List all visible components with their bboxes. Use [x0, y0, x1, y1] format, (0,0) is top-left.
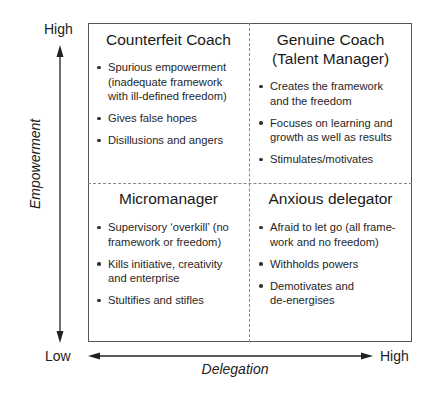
bullet-line: and the freedom	[270, 94, 411, 109]
bullet-line: work and no freedom)	[270, 235, 411, 250]
bullet-line: framework or freedom)	[108, 235, 249, 250]
bullet-item: Withholds powers	[250, 257, 411, 272]
bullet-line: Disillusions and angers	[108, 133, 249, 148]
x-axis-high-label: High	[380, 348, 409, 364]
bullet-item: Creates the framework and the freedom	[250, 79, 411, 108]
y-axis-title: Empowerment	[27, 129, 43, 209]
bullet-list: Spurious empowerment (inadequate framewo…	[88, 60, 249, 148]
bullet-line: and enterprise	[108, 271, 249, 286]
bullet-list: Creates the framework and the freedom Fo…	[250, 79, 411, 167]
title-line: Counterfeit Coach	[88, 30, 249, 49]
bullet-item: Disillusions and angers	[88, 133, 249, 148]
bullet-item: Stimulates/motivates	[250, 152, 411, 167]
quadrant-genuine-coach: Genuine Coach (Talent Manager) Creates t…	[250, 30, 411, 174]
quadrant-title: Genuine Coach (Talent Manager)	[250, 30, 411, 68]
quadrant-title: Anxious delegator	[250, 189, 411, 208]
y-axis-high-label: High	[44, 21, 73, 37]
bullet-item: Stultifies and stifles	[88, 293, 249, 308]
bullet-line: de-energises	[270, 293, 411, 308]
bullet-line: Stultifies and stifles	[108, 293, 249, 308]
quadrant-counterfeit-coach: Counterfeit Coach Spurious empowerment (…	[88, 30, 249, 155]
bullet-line: (inadequate framework	[108, 75, 249, 90]
bullet-line: Supervisory ‘overkill’ (no	[108, 220, 249, 235]
bullet-line: growth as well as results	[270, 130, 411, 145]
bullet-line: Spurious empowerment	[108, 60, 249, 75]
bullet-line: with ill-defined freedom)	[108, 89, 249, 104]
bullet-line: Kills initiative, creativity	[108, 257, 249, 272]
x-axis-title: Delegation	[190, 361, 280, 377]
bullet-item: Afraid to let go (all frame- work and no…	[250, 220, 411, 249]
bullet-line: Demotivates and	[270, 279, 411, 294]
bullet-item: Supervisory ‘overkill’ (no framework or …	[88, 220, 249, 249]
bullet-item: Gives false hopes	[88, 111, 249, 126]
bullet-line: Withholds powers	[270, 257, 411, 272]
bullet-line: Gives false hopes	[108, 111, 249, 126]
bullet-item: Spurious empowerment (inadequate framewo…	[88, 60, 249, 104]
quadrant-title: Counterfeit Coach	[88, 30, 249, 49]
title-line: (Talent Manager)	[250, 49, 411, 68]
quadrant-title: Micromanager	[88, 189, 249, 208]
bullet-item: Focuses on learning and growth as well a…	[250, 116, 411, 145]
horizontal-divider	[88, 183, 412, 184]
title-line: Anxious delegator	[250, 189, 411, 208]
bullet-list: Supervisory ‘overkill’ (no framework or …	[88, 220, 249, 308]
bullet-line: Afraid to let go (all frame-	[270, 220, 411, 235]
bullet-item: Demotivates and de-energises	[250, 279, 411, 308]
bullet-item: Kills initiative, creativity and enterpr…	[88, 257, 249, 286]
quadrant-micromanager: Micromanager Supervisory ‘overkill’ (no …	[88, 189, 249, 315]
title-line: Genuine Coach	[250, 30, 411, 49]
bullet-line: Stimulates/motivates	[270, 152, 411, 167]
title-line: Micromanager	[88, 189, 249, 208]
quadrant-anxious-delegator: Anxious delegator Afraid to let go (all …	[250, 189, 411, 315]
y-axis-low-label: Low	[45, 348, 71, 364]
bullet-list: Afraid to let go (all frame- work and no…	[250, 220, 411, 308]
bullet-line: Creates the framework	[270, 79, 411, 94]
bullet-line: Focuses on learning and	[270, 116, 411, 131]
